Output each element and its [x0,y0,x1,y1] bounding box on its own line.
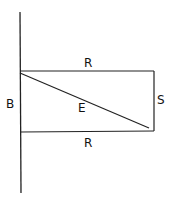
bottom-edge-line [20,131,154,132]
label-diagonal-e: E [78,101,86,115]
label-top-r: R [84,56,92,70]
label-right-s: S [157,93,165,107]
label-left-b: B [6,97,14,111]
diagram-canvas: R B S E R [0,0,176,202]
vertical-axis-line [20,12,21,193]
label-bottom-r: R [84,136,92,150]
